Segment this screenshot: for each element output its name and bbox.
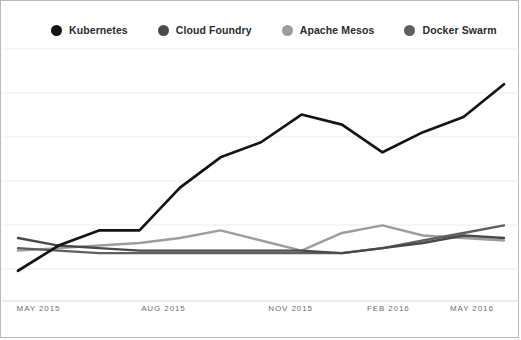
series-line-kubernetes[interactable] [18,84,504,270]
series-line-docker-swarm[interactable] [18,225,504,253]
legend-dot-icon [282,25,293,36]
x-axis-tick-label: NOV 2015 [268,304,313,313]
x-axis: MAY 2015AUG 2015NOV 2015FEB 2016MAY 2016 [1,304,520,324]
legend-dot-icon [51,25,62,36]
legend-item-docker-swarm[interactable]: Docker Swarm [404,24,496,36]
legend-dot-icon [404,25,415,36]
x-axis-tick-label: AUG 2015 [141,304,186,313]
x-axis-tick-label: MAY 2016 [450,304,494,313]
legend-item-label: Apache Mesos [300,24,375,36]
legend-item-cloud-foundry[interactable]: Cloud Foundry [158,24,252,36]
x-axis-tick-label: FEB 2016 [367,304,410,313]
legend-item-apache-mesos[interactable]: Apache Mesos [282,24,375,36]
legend-item-label: Cloud Foundry [176,24,252,36]
x-axis-tick-label: MAY 2015 [17,304,61,313]
line-chart-svg [1,45,520,303]
legend-item-label: Kubernetes [69,24,128,36]
legend-dot-icon [158,25,169,36]
legend-item-kubernetes[interactable]: Kubernetes [51,24,128,36]
plot-area [1,45,520,303]
legend-item-label: Docker Swarm [422,24,496,36]
chart-card: KubernetesCloud FoundryApache MesosDocke… [0,0,519,338]
chart-legend: KubernetesCloud FoundryApache MesosDocke… [1,17,518,43]
